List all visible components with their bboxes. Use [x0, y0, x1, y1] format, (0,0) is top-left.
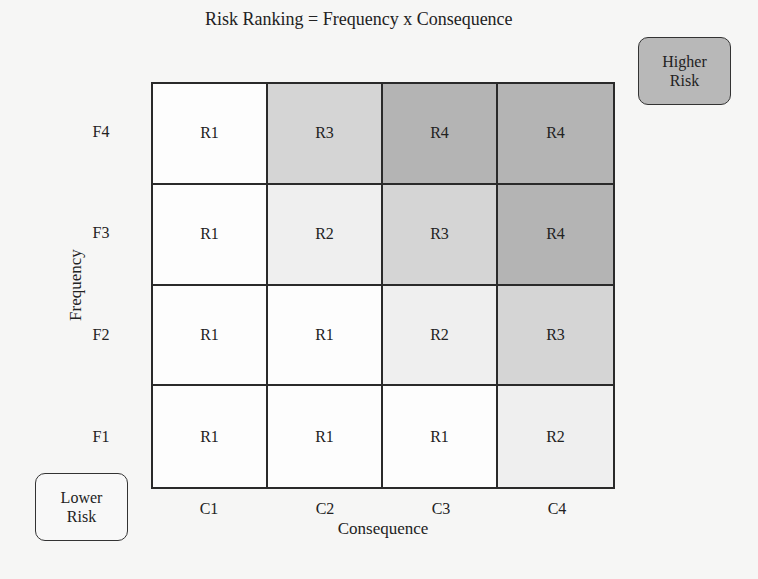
cell-f2-c3: R2: [383, 286, 498, 387]
column-label-c3: C3: [383, 500, 499, 518]
cell-f4-c4: R4: [498, 84, 613, 185]
cell-f2-c4: R3: [498, 286, 613, 387]
cell-f1-c2: R1: [268, 386, 383, 487]
cell-f3-c3: R3: [383, 185, 498, 286]
cell-f4-c2: R3: [268, 84, 383, 185]
column-label-c1: C1: [151, 500, 267, 518]
higher-risk-line2: Risk: [670, 71, 699, 90]
cell-f3-c1: R1: [153, 185, 268, 286]
cell-f1-c1: R1: [153, 386, 268, 487]
cell-f2-c2: R1: [268, 286, 383, 387]
row-label-f1: F1: [86, 428, 116, 446]
row-label-f2: F2: [86, 326, 116, 344]
title-text: Risk Ranking = Frequency x Consequence: [205, 9, 513, 30]
cell-f3-c4: R4: [498, 185, 613, 286]
risk-matrix: R1 R3 R4 R4 R1 R2 R3 R4 R1 R1 R2 R3 R1 R…: [151, 82, 615, 489]
higher-risk-line1: Higher: [662, 52, 706, 71]
cell-f2-c1: R1: [153, 286, 268, 387]
cell-f3-c2: R2: [268, 185, 383, 286]
column-label-c4: C4: [499, 500, 615, 518]
column-label-c2: C2: [267, 500, 383, 518]
lower-risk-legend: Lower Risk: [35, 473, 128, 541]
x-axis-label: Consequence: [151, 519, 615, 539]
cell-f4-c3: R4: [383, 84, 498, 185]
lower-risk-line1: Lower: [61, 488, 103, 507]
row-label-f4: F4: [86, 123, 116, 141]
higher-risk-legend: Higher Risk: [638, 37, 731, 105]
lower-risk-line2: Risk: [67, 507, 96, 526]
cell-f4-c1: R1: [153, 84, 268, 185]
cell-f1-c3: R1: [383, 386, 498, 487]
row-label-f3: F3: [86, 224, 116, 242]
cell-f1-c4: R2: [498, 386, 613, 487]
y-axis-label: Frequency: [66, 249, 86, 321]
